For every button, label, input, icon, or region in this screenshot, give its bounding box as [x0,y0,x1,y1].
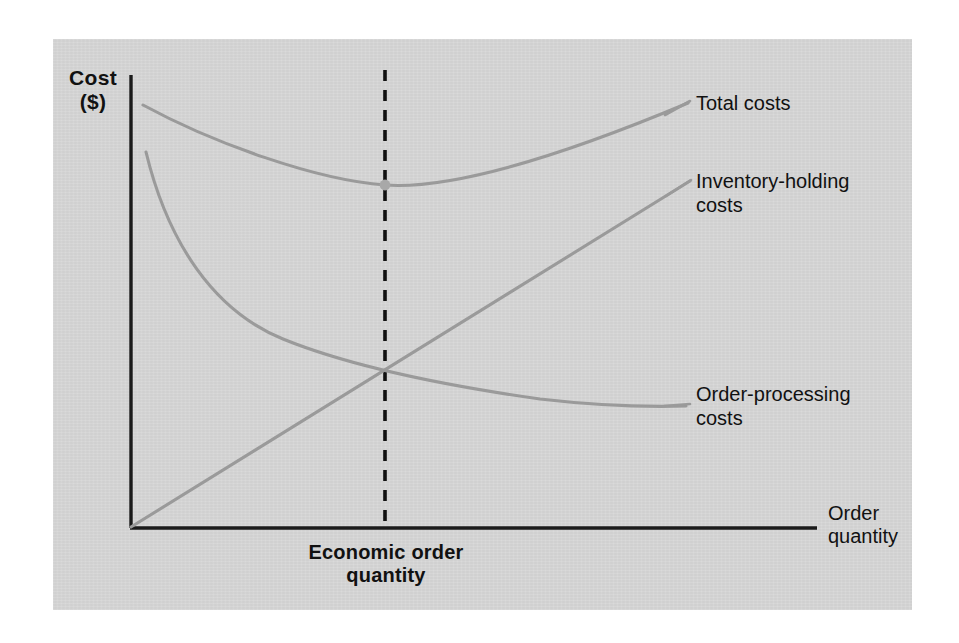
economic-order-quantity-label: Economic order quantity [236,541,536,587]
order-processing-costs-label: Order-processing costs [696,383,926,430]
figure-root: Cost ($) Order quantity Economic order q… [0,0,959,643]
eoq-label-line2: quantity [236,564,536,587]
inventory-holding-costs-leader-line [666,180,691,196]
x-axis-title-line2: quantity [828,525,948,548]
total-costs-label: Total costs [696,92,906,116]
inventory-holding-costs-curve [131,181,690,527]
x-axis-title: Order quantity [828,502,948,548]
x-axis-title-line1: Order [828,502,948,525]
total-costs-label-line1: Total costs [696,92,906,116]
inventory-holding-label-line2: costs [696,194,911,218]
y-axis-title-line2: ($) [62,90,124,114]
order-processing-costs-curve [146,152,686,406]
inventory-holding-costs-label: Inventory-holding costs [696,170,911,217]
eoq-label-line1: Economic order [236,541,536,564]
y-axis-title: Cost ($) [62,66,124,115]
total-costs-leader-line [665,101,690,115]
total-costs-curve [143,103,688,185]
y-axis-title-line1: Cost [62,66,124,90]
order-processing-label-line1: Order-processing [696,383,926,407]
minimum-total-cost-marker-dot [380,180,391,191]
order-processing-label-line2: costs [696,407,926,431]
inventory-holding-label-line1: Inventory-holding [696,170,911,194]
